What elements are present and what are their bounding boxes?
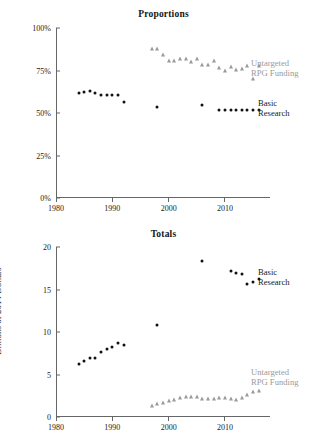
data-point-basic-research <box>252 280 255 283</box>
data-point-basic-research <box>88 356 91 359</box>
figure-root: Proportions Percent 0%25%50%75%100%19801… <box>0 0 327 442</box>
data-point-basic-research <box>116 342 119 345</box>
data-point-basic-research <box>235 108 238 111</box>
data-point-untargeted-rpg-funding <box>229 397 233 401</box>
data-point-untargeted-rpg-funding <box>234 67 238 71</box>
data-point-basic-research <box>156 106 159 109</box>
data-point-untargeted-rpg-funding <box>161 400 165 404</box>
data-point-basic-research <box>83 359 86 362</box>
data-point-untargeted-rpg-funding <box>195 56 199 60</box>
tick-mark <box>56 155 60 156</box>
data-point-basic-research <box>246 108 249 111</box>
data-point-basic-research <box>105 94 108 97</box>
data-point-basic-research <box>246 282 249 285</box>
tick-mark <box>56 289 60 290</box>
data-point-basic-research <box>122 100 125 103</box>
data-point-basic-research <box>240 273 243 276</box>
x-axis-tick: 1990 <box>104 417 120 432</box>
data-point-basic-research <box>235 272 238 275</box>
data-point-untargeted-rpg-funding <box>150 403 154 407</box>
data-point-untargeted-rpg-funding <box>155 402 159 406</box>
data-point-untargeted-rpg-funding <box>172 59 176 63</box>
data-point-basic-research <box>240 108 243 111</box>
series-annotation-untargeted: UntargetedRPG Funding <box>251 59 299 78</box>
data-point-untargeted-rpg-funding <box>212 59 216 63</box>
data-point-untargeted-rpg-funding <box>184 57 188 61</box>
data-point-basic-research <box>122 343 125 346</box>
x-axis-tick: 2000 <box>161 417 177 432</box>
data-point-untargeted-rpg-funding <box>245 392 249 396</box>
data-point-basic-research <box>94 356 97 359</box>
x-axis-tick: 1980 <box>48 417 64 432</box>
y-axis-tick: 5 <box>47 370 56 379</box>
y-axis-tick: 20 <box>43 243 56 252</box>
data-point-untargeted-rpg-funding <box>240 66 244 70</box>
y-axis-tick: 50% <box>36 109 56 118</box>
data-point-basic-research <box>252 108 255 111</box>
data-point-basic-research <box>105 348 108 351</box>
tick-mark <box>224 417 225 421</box>
data-point-untargeted-rpg-funding <box>223 69 227 73</box>
data-point-basic-research <box>223 108 226 111</box>
data-point-basic-research <box>229 108 232 111</box>
y-axis-tick: 25% <box>36 151 56 160</box>
tick-mark <box>56 417 57 421</box>
data-point-untargeted-rpg-funding <box>206 397 210 401</box>
chart-panel-totals: Totals Billions of 2014 Dollars 05101520… <box>0 221 327 442</box>
data-point-untargeted-rpg-funding <box>161 53 165 57</box>
y-axis-tick: 15 <box>43 285 56 294</box>
tick-mark <box>56 198 57 202</box>
plot-area-totals: 051015201980199020002010 <box>56 247 270 417</box>
y-axis-tick: 100% <box>32 24 56 33</box>
data-point-untargeted-rpg-funding <box>178 396 182 400</box>
data-point-untargeted-rpg-funding <box>251 389 255 393</box>
tick-mark <box>168 198 169 202</box>
data-point-untargeted-rpg-funding <box>178 56 182 60</box>
data-point-untargeted-rpg-funding <box>206 63 210 67</box>
data-point-basic-research <box>77 363 80 366</box>
data-point-basic-research <box>201 259 204 262</box>
annotation-line-2: Research <box>258 109 290 119</box>
tick-mark <box>112 198 113 202</box>
series-annotation-basic: BasicResearch <box>258 99 290 118</box>
data-point-untargeted-rpg-funding <box>200 397 204 401</box>
tick-mark <box>56 374 60 375</box>
data-point-untargeted-rpg-funding <box>172 398 176 402</box>
data-point-basic-research <box>77 91 80 94</box>
annotation-line-2: RPG Funding <box>251 69 299 79</box>
y-axis-tick: 75% <box>36 66 56 75</box>
annotation-line-2: RPG Funding <box>251 378 299 388</box>
tick-mark <box>112 417 113 421</box>
tick-mark <box>56 332 60 333</box>
data-point-untargeted-rpg-funding <box>234 398 238 402</box>
x-axis-tick: 1990 <box>104 198 120 213</box>
data-point-basic-research <box>100 94 103 97</box>
data-point-untargeted-rpg-funding <box>189 60 193 64</box>
data-point-untargeted-rpg-funding <box>223 396 227 400</box>
data-point-basic-research <box>111 346 114 349</box>
data-point-untargeted-rpg-funding <box>212 397 216 401</box>
data-point-basic-research <box>88 89 91 92</box>
data-point-untargeted-rpg-funding <box>229 65 233 69</box>
tick-mark <box>224 198 225 202</box>
data-point-untargeted-rpg-funding <box>195 395 199 399</box>
x-axis-tick: 1980 <box>48 198 64 213</box>
chart-title-proportions: Proportions <box>0 9 327 19</box>
data-point-untargeted-rpg-funding <box>184 394 188 398</box>
data-point-untargeted-rpg-funding <box>167 398 171 402</box>
data-point-basic-research <box>100 350 103 353</box>
y-axis-tick: 10 <box>43 328 56 337</box>
series-annotation-untargeted: UntargetedRPG Funding <box>251 368 299 387</box>
chart-panel-proportions: Proportions Percent 0%25%50%75%100%19801… <box>0 0 327 221</box>
data-point-basic-research <box>201 104 204 107</box>
x-axis-tick: 2010 <box>217 198 233 213</box>
data-point-untargeted-rpg-funding <box>200 63 204 67</box>
data-point-untargeted-rpg-funding <box>189 394 193 398</box>
plot-area-proportions: 0%25%50%75%100%1980199020002010 <box>56 28 270 198</box>
data-point-untargeted-rpg-funding <box>217 65 221 69</box>
x-axis-tick: 2000 <box>161 198 177 213</box>
data-point-untargeted-rpg-funding <box>155 47 159 51</box>
data-point-basic-research <box>94 92 97 95</box>
chart-title-totals: Totals <box>0 229 327 239</box>
annotation-line-2: Research <box>258 278 290 288</box>
